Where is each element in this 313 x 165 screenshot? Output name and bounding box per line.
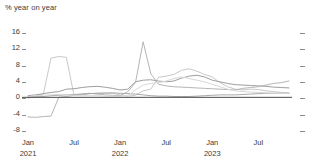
- series-layer: [28, 42, 289, 118]
- series-line-2: [28, 75, 289, 95]
- series-line-3: [28, 42, 289, 118]
- chart-container: % year on year 1612840-4-8 Jan2021JulJan…: [0, 0, 313, 165]
- series-line-5: [28, 77, 289, 97]
- plot-area: [0, 0, 313, 165]
